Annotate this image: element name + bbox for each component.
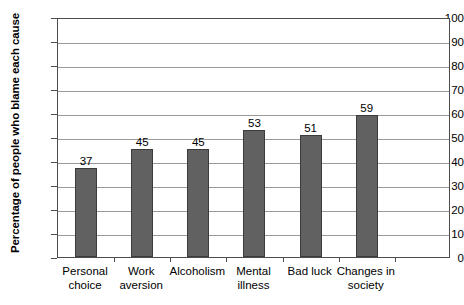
category-label-line: Changes in xyxy=(337,265,395,277)
bar[interactable] xyxy=(131,149,153,257)
bar[interactable] xyxy=(356,115,378,257)
category-label-line: society xyxy=(328,278,404,292)
bar[interactable] xyxy=(75,168,97,257)
bar-value-label: 37 xyxy=(80,155,93,167)
category-label-line: Work xyxy=(128,265,155,277)
bar[interactable] xyxy=(300,135,322,257)
x-axis-category-label: Changes insociety xyxy=(328,264,404,292)
category-label-line: Mental xyxy=(236,265,271,277)
x-axis-tick-mark xyxy=(339,257,340,262)
category-label-line: Personal xyxy=(62,265,107,277)
y-axis-tick-mark xyxy=(51,258,57,259)
bar-slot: 51 xyxy=(283,19,339,257)
x-axis-tick-mark xyxy=(170,257,171,262)
bar[interactable] xyxy=(187,149,209,257)
bar-slot: 53 xyxy=(226,19,282,257)
x-axis-tick-mark xyxy=(283,257,284,262)
bar-value-label: 51 xyxy=(304,122,317,134)
bar-value-label: 53 xyxy=(248,117,261,129)
bar-value-label: 45 xyxy=(192,136,205,148)
bar[interactable] xyxy=(243,130,265,257)
category-label-line: illness xyxy=(215,278,291,292)
x-axis-tick-mark xyxy=(114,257,115,262)
bar-slot: 37 xyxy=(58,19,114,257)
bar-chart: Percentage of people who blame each caus… xyxy=(0,0,464,305)
category-label-line: Bad luck xyxy=(288,265,332,277)
y-axis-title: Percentage of people who blame each caus… xyxy=(4,4,26,262)
category-label-line: aversion xyxy=(103,278,179,292)
bar-value-label: 45 xyxy=(136,136,149,148)
bar-slot: 45 xyxy=(170,19,226,257)
x-axis-tick-mark xyxy=(226,257,227,262)
bar-slot: 45 xyxy=(114,19,170,257)
bar-slot: 59 xyxy=(339,19,395,257)
x-axis-tick-mark xyxy=(395,257,396,262)
plot-area: 374545535159 xyxy=(57,18,450,258)
bar-value-label: 59 xyxy=(360,102,373,114)
